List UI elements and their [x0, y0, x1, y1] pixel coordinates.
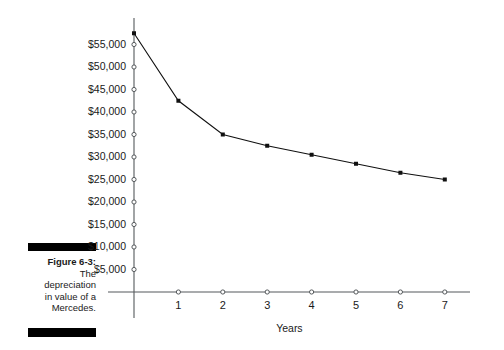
x-axis-tick-mark	[310, 290, 314, 294]
figure-container: Figure 6-3: The depreciation in value of…	[0, 0, 504, 350]
data-point-marker	[398, 171, 402, 175]
y-axis-tick-mark	[132, 65, 136, 69]
chart-axes	[108, 18, 470, 318]
x-axis-tick-mark	[443, 290, 447, 294]
y-axis-tick-mark	[132, 42, 136, 46]
data-point-marker	[221, 133, 225, 137]
line-chart-plot	[0, 0, 504, 350]
data-point-marker	[132, 31, 136, 35]
series-line-depreciation	[134, 33, 445, 179]
y-axis-tick-mark	[132, 87, 136, 91]
x-axis-tick-mark	[176, 290, 180, 294]
x-axis-tick-mark	[221, 290, 225, 294]
y-axis-tick-mark	[132, 177, 136, 181]
x-axis-tick-mark	[398, 290, 402, 294]
y-axis-tick-mark	[132, 267, 136, 271]
y-axis-tick-mark	[132, 132, 136, 136]
data-point-marker	[354, 162, 358, 166]
y-axis-tick-mark	[132, 110, 136, 114]
x-axis-tick-mark	[354, 290, 358, 294]
data-point-marker	[443, 178, 447, 182]
y-axis-tick-mark	[132, 222, 136, 226]
x-axis-tick-mark	[265, 290, 269, 294]
data-point-marker	[310, 153, 314, 157]
y-axis-tick-mark	[132, 245, 136, 249]
series-data-markers	[132, 31, 447, 181]
data-point-marker	[176, 99, 180, 103]
y-axis-tick-mark	[132, 155, 136, 159]
y-axis-tick-mark	[132, 200, 136, 204]
data-point-marker	[265, 144, 269, 148]
